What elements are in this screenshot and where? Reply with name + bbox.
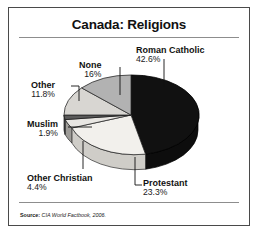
source-text: CIA World Factbook, 2006. [42, 212, 107, 218]
slice-value-protestant: 23.3% [143, 188, 188, 198]
source-label: Source: [20, 212, 40, 218]
source-note: Source: CIA World Factbook, 2006. [20, 212, 106, 218]
source-divider [19, 202, 239, 203]
pie-chart: Roman Catholic 42.6% None 16% Other 11.8… [9, 39, 249, 204]
slice-label-other: Other 11.8% [31, 80, 55, 100]
slice-label-other-christian: Other Christian 4.4% [27, 173, 93, 193]
slice-label-protestant: Protestant 23.3% [143, 178, 188, 198]
slice-value-muslim: 1.9% [27, 129, 58, 139]
chart-frame: Canada: Religions [8, 7, 250, 226]
slice-label-none: None 16% [79, 60, 102, 80]
slice-value-roman-catholic: 42.6% [136, 55, 205, 65]
slice-value-other: 11.8% [31, 90, 55, 100]
title-divider [19, 37, 239, 38]
slice-label-roman-catholic: Roman Catholic 42.6% [136, 45, 205, 65]
slice-label-muslim: Muslim 1.9% [27, 119, 58, 139]
slice-value-none: 16% [79, 70, 102, 80]
chart-title: Canada: Religions [9, 17, 249, 32]
slice-value-other-christian: 4.4% [27, 183, 93, 193]
